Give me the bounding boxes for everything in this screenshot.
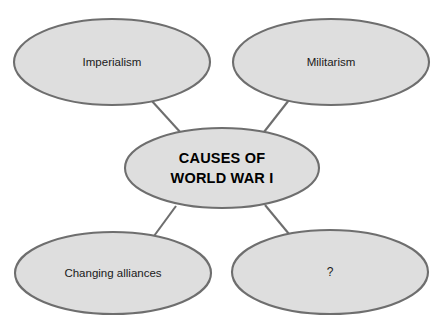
node-unknown-cause-label: ? bbox=[327, 265, 334, 279]
node-militarism[interactable]: Militarism bbox=[233, 19, 429, 105]
connector-imperialism-to-center bbox=[151, 100, 181, 133]
node-center-causes-of-world-war-i[interactable]: CAUSES OF WORLD WAR I bbox=[125, 128, 319, 208]
concept-map-diagram: Imperialism Militarism Changing alliance… bbox=[0, 0, 443, 330]
node-imperialism-label: Imperialism bbox=[83, 56, 142, 68]
node-center-shape bbox=[125, 128, 319, 208]
node-militarism-label: Militarism bbox=[307, 56, 356, 68]
connector-center-to-changing-alliances bbox=[154, 206, 176, 236]
connector-militarism-to-center bbox=[264, 100, 289, 132]
node-center-label-line1: CAUSES OF bbox=[179, 150, 265, 166]
node-unknown-cause[interactable]: ? bbox=[232, 230, 428, 314]
node-imperialism[interactable]: Imperialism bbox=[14, 19, 210, 105]
node-changing-alliances-label: Changing alliances bbox=[64, 267, 161, 279]
node-changing-alliances[interactable]: Changing alliances bbox=[15, 232, 211, 314]
node-center-label-line2: WORLD WAR I bbox=[171, 170, 274, 186]
concept-map-canvas: Imperialism Militarism Changing alliance… bbox=[0, 0, 443, 330]
connector-center-to-unknown bbox=[265, 205, 289, 234]
